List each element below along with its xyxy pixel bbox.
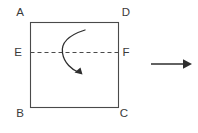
vertex-label-e: E [14, 46, 22, 58]
vertex-label-b: B [16, 107, 24, 119]
fold-rotation-arrow [62, 30, 85, 73]
vertex-label-f: F [122, 46, 129, 58]
vertex-label-a: A [16, 6, 24, 18]
vertex-label-c: C [120, 107, 128, 119]
figure-canvas: A D E F B C [0, 0, 198, 133]
result-right-arrowhead [183, 59, 192, 69]
vertex-label-d: D [122, 6, 130, 18]
geometry-figure: A D E F B C [0, 0, 198, 133]
square-ABCD [31, 23, 119, 108]
